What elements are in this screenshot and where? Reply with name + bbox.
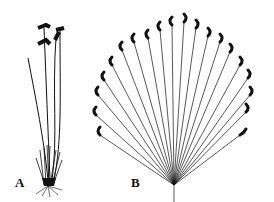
panel-label-b: B [131,175,140,191]
botanical-illustration [0,0,274,202]
panel-label-a: A [15,175,24,191]
panel-a-plant [28,25,64,197]
panel-b-cluster [96,22,250,202]
